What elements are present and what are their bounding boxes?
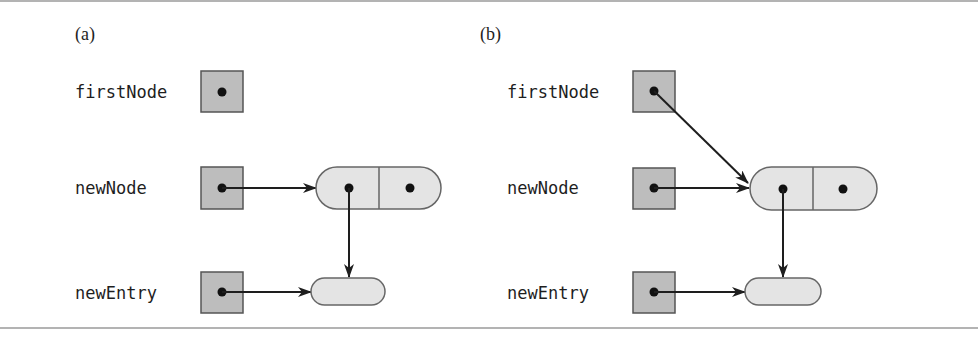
node-next-dot (839, 185, 848, 194)
pointer-dot (218, 88, 227, 97)
variable-label-newnode: newNode (75, 178, 147, 198)
variable-label-firstnode: firstNode (507, 82, 599, 102)
panel-label: (b) (480, 24, 501, 45)
node-next-dot (406, 184, 415, 193)
linked-list-diagram: (a) firstNode newNode newEntry (b) first… (0, 0, 978, 340)
entry-object (745, 278, 821, 305)
variable-label-newentry: newEntry (507, 283, 589, 303)
entry-object (311, 278, 385, 305)
variable-label-firstnode: firstNode (75, 82, 167, 102)
panel-label: (a) (75, 24, 95, 45)
panel-a: (a) firstNode newNode newEntry (75, 24, 441, 313)
variable-label-newentry: newEntry (75, 283, 157, 303)
variable-label-newnode: newNode (507, 178, 579, 198)
panel-b: (b) firstNode newNode newEntry (480, 24, 877, 313)
